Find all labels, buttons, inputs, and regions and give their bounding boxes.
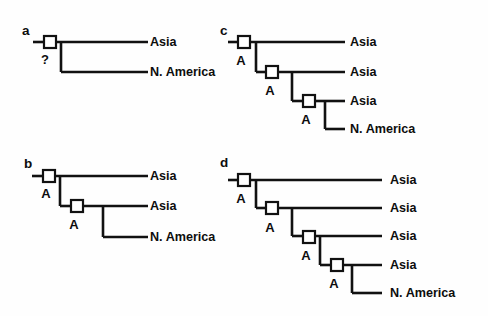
tip-label-b-1: Asia <box>150 200 177 213</box>
tip-label-d-0: Asia <box>390 174 417 187</box>
node-annotation-c-0: A <box>236 54 245 67</box>
tip-label-a-0: Asia <box>150 36 177 49</box>
phylogeny-figure: a?AsiaN. AmericabAAAsiaAsiaN. AmericacAA… <box>0 0 488 316</box>
ancestral-node-square-c-1 <box>266 66 278 78</box>
node-annotation-d-0: A <box>236 192 245 205</box>
tip-label-c-1: Asia <box>350 66 377 79</box>
tip-label-c-3: N. America <box>350 123 415 136</box>
ancestral-node-square-a-0 <box>44 36 56 48</box>
tip-label-d-1: Asia <box>390 202 417 215</box>
node-annotation-c-1: A <box>265 84 274 97</box>
node-annotation-c-2: A <box>301 113 310 126</box>
node-annotation-b-0: A <box>41 187 50 200</box>
ancestral-node-square-c-0 <box>238 36 250 48</box>
tip-label-d-3: Asia <box>390 259 417 272</box>
tip-label-b-0: Asia <box>150 170 177 183</box>
node-annotation-d-3: A <box>329 277 338 290</box>
tip-label-a-1: N. America <box>150 66 215 79</box>
ancestral-node-square-b-0 <box>43 170 55 182</box>
node-annotation-a-0: ? <box>41 53 49 66</box>
tip-label-d-4: N. America <box>390 287 455 300</box>
ancestral-node-square-c-2 <box>303 95 315 107</box>
panel-letter-b: b <box>24 157 32 171</box>
panel-letter-d: d <box>220 156 228 170</box>
panel-letter-c: c <box>220 24 228 38</box>
ancestral-node-square-d-3 <box>331 259 343 271</box>
ancestral-node-square-d-2 <box>303 231 315 243</box>
panel-letter-a: a <box>22 24 30 38</box>
ancestral-node-square-d-0 <box>238 174 250 186</box>
tip-label-c-0: Asia <box>350 36 377 49</box>
node-annotation-d-2: A <box>301 249 310 262</box>
tip-label-c-2: Asia <box>350 95 377 108</box>
node-annotation-b-1: A <box>69 218 78 231</box>
tip-label-d-2: Asia <box>390 230 417 243</box>
ancestral-node-square-d-1 <box>266 202 278 214</box>
tip-label-b-2: N. America <box>150 231 215 244</box>
node-annotation-d-1: A <box>265 221 274 234</box>
ancestral-node-square-b-1 <box>71 200 83 212</box>
